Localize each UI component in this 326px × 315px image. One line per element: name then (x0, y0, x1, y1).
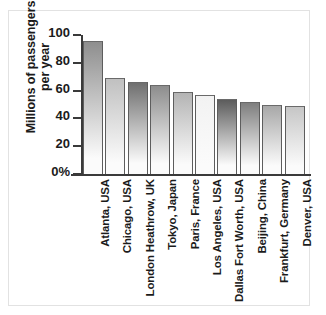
chart-frame: Millions of passengers per year 0%204060… (8, 10, 310, 306)
y-axis-tick: 0% (73, 173, 81, 175)
y-axis-tick-label: 40 (56, 108, 70, 123)
bar-9 (262, 105, 282, 175)
y-axis-tick: 80 (73, 62, 81, 64)
x-axis-label-1: Atlanta, USA (99, 179, 111, 247)
y-axis-tick-label: 60 (56, 81, 70, 96)
bar-series (83, 35, 309, 174)
bar-7 (217, 99, 237, 174)
y-axis-tick-label: 80 (56, 53, 70, 68)
bar-4 (150, 85, 170, 174)
x-axis-label-9: Frankfurt, Germany (278, 179, 290, 283)
x-axis-line (71, 174, 311, 176)
x-axis-label-10: Denver, USA (301, 179, 313, 246)
x-axis-label-5: Paris, France (189, 179, 201, 249)
x-axis-label-3: London Heathrow, UK (144, 179, 156, 296)
x-axis-label-7: Dallas Fort Worth, USA (233, 179, 245, 302)
y-axis-tick: 100 (73, 34, 81, 36)
x-axis-label-8: Beijing, China (256, 179, 268, 254)
bar-6 (195, 95, 215, 174)
x-axis-label-4: Tokyo, Japan (166, 179, 178, 250)
bar-10 (285, 106, 305, 174)
y-axis-tick-label: 100 (48, 25, 70, 40)
y-axis-tick: 20 (73, 145, 81, 147)
x-axis-label-2: Chicago, USA (121, 179, 133, 253)
x-axis-label-6: Los Angeles, USA (211, 179, 223, 275)
x-axis-category-labels: Atlanta, USAChicago, USALondon Heathrow,… (83, 179, 313, 299)
y-axis-tick: 40 (73, 117, 81, 119)
y-axis-tick: 60 (73, 90, 81, 92)
y-axis-tick-label: 0% (51, 164, 70, 179)
y-axis-title-line-2: per year (38, 43, 52, 91)
bar-1 (83, 41, 103, 174)
bar-2 (105, 78, 125, 174)
y-axis-tick-label: 20 (56, 136, 70, 151)
plot-area: 0%20406080100 (81, 35, 309, 174)
y-axis-title-line-1: Millions of passengers (24, 1, 38, 134)
bar-5 (173, 92, 193, 174)
bar-3 (128, 82, 148, 174)
bar-8 (240, 102, 260, 174)
